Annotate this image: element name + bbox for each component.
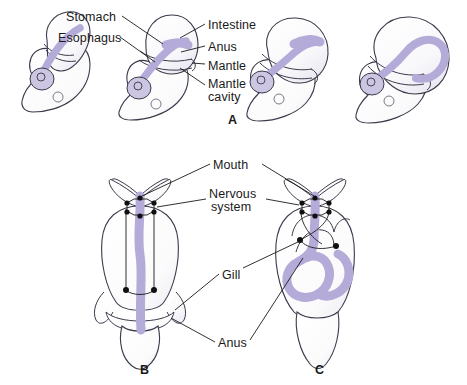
label-mantle: Mantle [208, 60, 246, 73]
panel-letter-a: A [228, 113, 237, 127]
leader-gill-b [175, 274, 219, 310]
label-anus-a: Anus [208, 41, 237, 54]
label-stomach: Stomach [66, 11, 116, 24]
leader-mantle [192, 63, 205, 64]
panel-letter-b: B [140, 363, 149, 377]
panel-b-figure [94, 179, 185, 369]
label-mouth: Mouth [213, 159, 248, 172]
leader-mouth-b [142, 164, 210, 196]
mouth-bulb [127, 77, 151, 99]
panel-a-stage-2 [119, 15, 198, 120]
stomach-mass [294, 40, 320, 44]
panel-a-stage-4 [356, 17, 449, 123]
leader-anus-b [171, 318, 215, 342]
panel-letter-c: C [315, 363, 324, 377]
mouth-bulb [360, 73, 384, 95]
label-mantle-cavity-line2: cavity [208, 91, 241, 104]
mouth-bulb [250, 71, 274, 93]
panel-a-stage-3 [247, 18, 328, 121]
torsion-figure: Stomach Esophagus Intestine Anus Mantle … [0, 0, 467, 385]
foot [296, 312, 339, 369]
label-nervous-system-line2: system [211, 201, 251, 214]
panel-c-figure [276, 179, 355, 369]
label-gill: Gill [222, 269, 240, 282]
stomach-mass [166, 43, 188, 45]
leader-mouth-c [262, 164, 314, 196]
panel-a-stage-1 [22, 12, 90, 112]
leader-nervous-c [266, 199, 299, 205]
label-esophagus: Esophagus [58, 32, 121, 45]
mouth-bulb [30, 68, 54, 90]
label-intestine: Intestine [208, 19, 256, 32]
leader-nervous-b [157, 199, 206, 207]
label-anus-bc: Anus [218, 337, 247, 350]
